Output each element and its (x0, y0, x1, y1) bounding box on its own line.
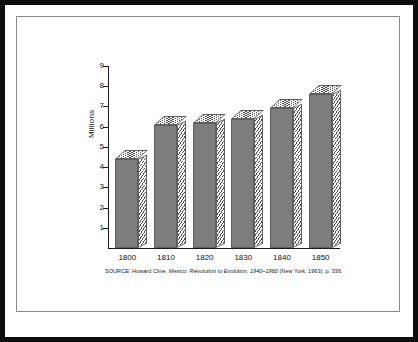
y-tick-label: 9 (100, 62, 104, 70)
bar-1830 (231, 110, 254, 248)
source-label: SOURCE: (105, 268, 131, 274)
bar-front-face (115, 159, 138, 248)
figure-frame: Millions 123456789 180018101820183018401… (0, 0, 418, 342)
y-tick-label: 5 (100, 143, 104, 151)
source-note: SOURCE: Howard Cline, Mexico: Revolution… (105, 267, 353, 276)
y-tick-label: 7 (100, 102, 104, 110)
plot-area: 123456789 180018101820183018401850 (108, 67, 340, 249)
bar-side-face (138, 155, 147, 248)
y-axis-line (108, 67, 109, 249)
bar-side-face (177, 120, 186, 248)
bar-front-face (270, 108, 293, 248)
bar-1840 (270, 99, 293, 248)
y-tick-label: 6 (100, 123, 104, 131)
y-tick-label: 3 (100, 183, 104, 191)
y-tick-label: 8 (100, 82, 104, 90)
x-axis-line (108, 248, 340, 249)
bar-front-face (309, 94, 332, 248)
source-title: Mexico: Revolution to Evolution, 1940–19… (169, 268, 278, 274)
bar-front-face (154, 125, 177, 248)
source-author: Howard Cline, (132, 268, 167, 274)
bar-side-face (332, 90, 341, 248)
source-publication: (New York, 1963), p. 336. (279, 268, 342, 274)
bar-1810 (154, 116, 177, 248)
bar-1820 (193, 114, 216, 248)
bar-side-face (293, 104, 302, 248)
y-tick-label: 1 (100, 224, 104, 232)
x-tick-label-1820: 1820 (185, 253, 224, 262)
bar-1800 (115, 150, 138, 248)
bar-front-face (193, 123, 216, 248)
x-tick-label-1830: 1830 (224, 253, 263, 262)
bar-chart: Millions 123456789 180018101820183018401… (5, 5, 418, 342)
bar-front-face (231, 119, 254, 248)
x-tick-label-1810: 1810 (147, 253, 186, 262)
bar-1850 (309, 85, 332, 248)
y-tick-label: 4 (100, 163, 104, 171)
bar-side-face (216, 118, 225, 248)
bar-side-face (254, 114, 263, 248)
y-axis-label: Millions (87, 110, 96, 138)
y-tick-label: 2 (100, 204, 104, 212)
x-tick-label-1840: 1840 (263, 253, 302, 262)
x-tick-label-1850: 1850 (301, 253, 340, 262)
x-tick-label-1800: 1800 (108, 253, 147, 262)
